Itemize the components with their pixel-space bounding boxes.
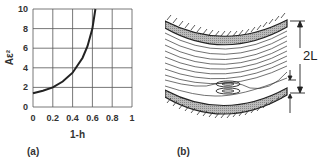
- panel-label-b: (b): [177, 146, 190, 157]
- dimension-label-2L: 2L: [303, 48, 317, 63]
- panel-b-diagram: 2L (b): [0, 0, 322, 165]
- dimension-l: [288, 70, 296, 113]
- channel-diagram: [0, 0, 322, 145]
- upper-wall: [165, 20, 287, 45]
